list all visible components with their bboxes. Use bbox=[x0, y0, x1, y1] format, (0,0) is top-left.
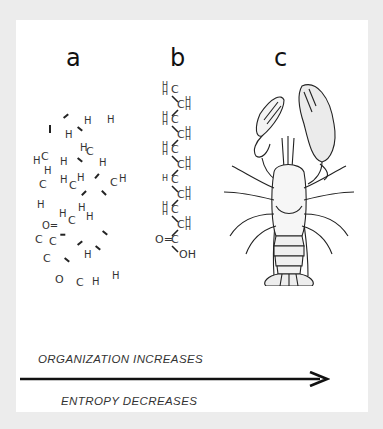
chain-atom: OH bbox=[179, 249, 196, 260]
atom-o: O bbox=[55, 274, 64, 285]
atom-c: C bbox=[68, 215, 76, 226]
chain-substituent: O= bbox=[155, 234, 173, 245]
atom-c: C bbox=[86, 146, 94, 157]
atom-h: H bbox=[77, 173, 85, 183]
atom-c: C bbox=[69, 180, 77, 191]
chain-atom: C bbox=[171, 204, 179, 215]
atom-h: H bbox=[60, 175, 68, 185]
chain-substituent: H bbox=[162, 89, 168, 97]
chain-substituent: H bbox=[162, 149, 168, 157]
atom-h: H bbox=[84, 250, 92, 260]
atom-c: C bbox=[41, 151, 49, 162]
chain-atom: C bbox=[171, 144, 179, 155]
direction-arrow-icon bbox=[18, 371, 330, 387]
chain-atom: C bbox=[171, 174, 179, 185]
atom-c: C bbox=[35, 234, 43, 245]
atom-h: H bbox=[99, 158, 107, 168]
chain-atom: C bbox=[177, 159, 185, 170]
chain-atom: C bbox=[177, 99, 185, 110]
atom-h: H bbox=[84, 116, 92, 126]
atom-o-double-bond: O= bbox=[42, 221, 58, 231]
chain-atom: C bbox=[177, 129, 185, 140]
chain-substituent: H bbox=[185, 134, 191, 142]
atom-h: H bbox=[37, 200, 45, 210]
lobster-icon bbox=[212, 76, 362, 286]
atom-h: H bbox=[86, 212, 94, 222]
chain-substituent: H bbox=[162, 209, 168, 217]
caption-entropy: ENTROPY DECREASES bbox=[61, 395, 197, 407]
atom-c: C bbox=[39, 179, 47, 190]
atom-c: C bbox=[110, 177, 118, 188]
chain-substituent: H bbox=[185, 224, 191, 232]
atom-h: H bbox=[92, 277, 100, 287]
figure-panel: a b c HHHHCHCHHHCHCHCHHHHCHO=CCHCOCHH bbox=[16, 20, 368, 412]
chain-substituent: H bbox=[162, 175, 168, 183]
atom-h: H bbox=[112, 271, 120, 281]
atom-h: H bbox=[44, 166, 52, 176]
caption-organization: ORGANIZATION INCREASES bbox=[38, 353, 203, 365]
atom-h: H bbox=[107, 115, 115, 125]
chain-substituent: H bbox=[162, 119, 168, 127]
atom-h: H bbox=[33, 156, 41, 166]
label-c: c bbox=[274, 44, 287, 72]
atom-c: C bbox=[43, 253, 51, 264]
chain-atom: C bbox=[177, 219, 185, 230]
chain-atom: C bbox=[177, 189, 185, 200]
chain-atom: C bbox=[171, 84, 179, 95]
disordered-atoms: HHHHCHCHHHCHCHCHHHHCHO=CCHCOCHH bbox=[16, 20, 136, 320]
chain-substituent: H bbox=[185, 194, 191, 202]
atom-h: H bbox=[60, 157, 68, 167]
atom-h: H bbox=[78, 203, 86, 213]
chain-substituent: H bbox=[185, 104, 191, 112]
label-b: b bbox=[170, 44, 185, 72]
atom-h: H bbox=[119, 174, 127, 184]
atom-c: C bbox=[76, 277, 84, 288]
atom-h: H bbox=[65, 130, 73, 140]
chain-atom: C bbox=[171, 114, 179, 125]
atom-h: H bbox=[59, 209, 67, 219]
chain-substituent: H bbox=[185, 164, 191, 172]
atom-c: C bbox=[49, 236, 57, 247]
